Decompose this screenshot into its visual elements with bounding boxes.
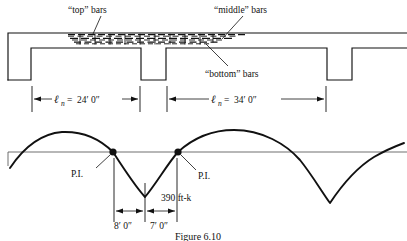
- top-bars-label: “top” bars: [68, 5, 107, 15]
- figure-6-10: “top” bars “middle” bars “bottom” bars ℓ…: [0, 0, 407, 241]
- middle-bars-leader: [222, 16, 243, 39]
- span-right-symbol: ℓ: [211, 93, 216, 105]
- arrowhead-right-2: [317, 96, 324, 101]
- rebar-detail: [68, 34, 246, 45]
- arrowhead-left-1: [34, 96, 41, 101]
- span-right-subscript: n: [218, 99, 222, 108]
- dimension-8ft-label: 8′ 0″: [114, 221, 132, 231]
- arrowhead-right-1: [169, 96, 176, 101]
- pi-right-label: P.I.: [198, 171, 210, 181]
- span-left-equals: =: [67, 95, 72, 105]
- pi-dot-right: [174, 148, 181, 155]
- top-bars-leader: [93, 16, 101, 34]
- rebar-ticks: [80, 34, 213, 45]
- dimension-span-left: ℓ n = 24′ 0″: [32, 86, 140, 112]
- dimension-7ft-label: 7′ 0″: [150, 221, 168, 231]
- moment-diagram: P.I. P.I. 390 ft-k 8′ 0″ 7′ 0″: [8, 130, 407, 231]
- arrowhead-7ft-1: [147, 208, 154, 213]
- span-right-equals: =: [224, 95, 229, 105]
- figure-caption: Figure 6.10: [175, 231, 221, 241]
- figure-canvas: “top” bars “middle” bars “bottom” bars ℓ…: [0, 0, 407, 241]
- pi-right-leader: [181, 155, 196, 170]
- span-left-subscript: n: [61, 99, 65, 108]
- pi-dot-left: [109, 148, 116, 155]
- middle-bars-label: “middle” bars: [214, 5, 267, 15]
- dimension-span-right: ℓ n = 34′ 0″: [167, 86, 326, 112]
- bottom-bars-leader: [206, 44, 228, 66]
- moment-curve: [10, 130, 404, 203]
- arrowhead-8ft-2: [136, 208, 143, 213]
- beam-elevation: “top” bars “middle” bars “bottom” bars ℓ…: [8, 5, 407, 112]
- span-right-value: 34′ 0″: [234, 95, 257, 105]
- span-left-value: 24′ 0″: [77, 95, 100, 105]
- arrowhead-left-2: [131, 96, 138, 101]
- pi-left-leader: [96, 155, 110, 168]
- moment-value-label: 390 ft-k: [161, 193, 192, 203]
- moment-baseline: [8, 152, 407, 166]
- arrowhead-7ft-2: [168, 208, 175, 213]
- span-left-symbol: ℓ: [54, 93, 59, 105]
- arrowhead-8ft-1: [116, 208, 123, 213]
- bottom-bars-label: “bottom” bars: [205, 69, 259, 79]
- pi-left-label: P.I.: [71, 169, 83, 179]
